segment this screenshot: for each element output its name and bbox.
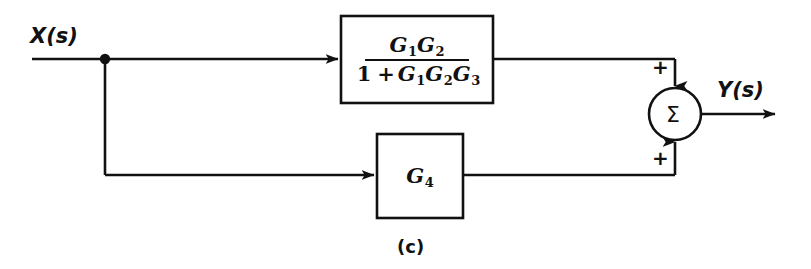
fraction-denominator: 1+G1G2G3: [350, 63, 485, 85]
block-diagram-figure: X(s) Y(s) G1G2 1+G1G2G3 G4 Σ + + (c): [0, 0, 811, 269]
denominator-term-1: G1: [398, 61, 426, 86]
gain-term: G4: [406, 165, 434, 187]
branch-node-dot: [100, 54, 110, 64]
summer-bottom-sign: +: [652, 148, 669, 168]
denominator-leading: 1: [354, 61, 375, 86]
numerator-term-1: G1: [389, 32, 417, 57]
input-signal-text: X(s): [30, 24, 78, 48]
figure-caption: (c): [397, 238, 424, 256]
denominator-operator: +: [374, 61, 398, 86]
gain-sub: 4: [424, 175, 434, 190]
denominator-term-3-sub: 3: [471, 73, 481, 88]
denominator-term-2-sub: 2: [443, 73, 453, 88]
gain-block-expression: G4: [377, 134, 463, 218]
numerator-term-2-sub: 2: [435, 44, 445, 59]
denominator-term-3: G3: [453, 61, 481, 86]
output-signal-label: Y(s): [717, 80, 764, 101]
fraction-numerator: G1G2: [385, 34, 448, 58]
gain-base: G: [406, 163, 424, 188]
denominator-term-1-sub: 1: [416, 73, 426, 88]
summer-top-sign: +: [652, 57, 669, 77]
numerator-term-1-sub: 1: [407, 44, 417, 59]
numerator-term-2: G2: [417, 32, 445, 57]
transfer-function-expression: G1G2 1+G1G2G3: [341, 16, 493, 103]
summing-junction-symbol: Σ: [666, 104, 680, 126]
output-signal-text: Y(s): [717, 78, 764, 102]
fraction: G1G2 1+G1G2G3: [350, 34, 485, 85]
denominator-term-2: G2: [425, 61, 453, 86]
input-signal-label: X(s): [30, 26, 78, 47]
